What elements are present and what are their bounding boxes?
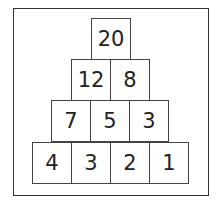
pyramid-cell: 20 <box>91 18 131 60</box>
pyramid-row-2: 12 8 <box>72 59 150 101</box>
pyramid-cell: 12 <box>71 59 111 101</box>
pyramid-cell: 3 <box>71 142 111 184</box>
pyramid-row-4: 4 3 2 1 <box>33 142 189 184</box>
pyramid-cell: 7 <box>51 100 91 142</box>
pyramid-cell: 8 <box>110 59 150 101</box>
pyramid-cell: 3 <box>129 100 169 142</box>
pyramid-row-3: 7 5 3 <box>52 100 169 142</box>
pyramid-cell: 4 <box>32 142 72 184</box>
pyramid-cell: 1 <box>149 142 189 184</box>
pyramid-cell: 2 <box>110 142 150 184</box>
pyramid-row-1: 20 <box>92 18 131 60</box>
pyramid-cell: 5 <box>90 100 130 142</box>
